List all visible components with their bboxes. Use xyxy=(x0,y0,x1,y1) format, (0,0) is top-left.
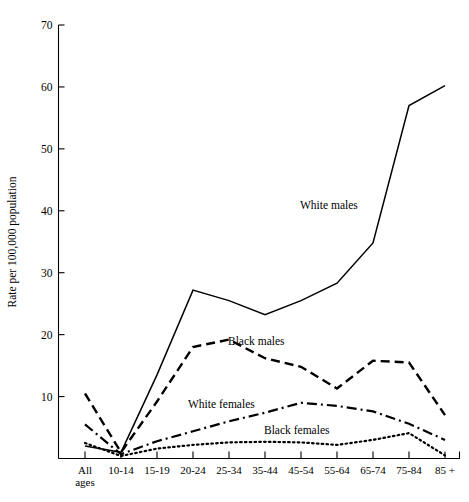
x-axis-tick-labels: Allages10-1415-1920-2425-3435-4445-5455-… xyxy=(75,464,455,488)
y-axis-title: Rate per 100,000 population xyxy=(6,176,19,307)
series-label-white-females: White females xyxy=(188,398,255,410)
y-tick-label-20: 20 xyxy=(41,329,53,341)
series-annotations: White malesBlack malesWhite femalesBlack… xyxy=(188,199,358,436)
x-tick-label-3: 20-24 xyxy=(180,464,206,476)
data-series-group xyxy=(85,86,445,456)
series-label-white-males: White males xyxy=(300,199,358,211)
x-tick-label-8: 65-74 xyxy=(360,464,386,476)
y-tick-label-50: 50 xyxy=(41,143,53,155)
series-label-black-males: Black males xyxy=(228,335,285,347)
series-line-white-males xyxy=(85,86,445,453)
series-label-black-females: Black females xyxy=(264,424,330,436)
x-tick-label-10: 85 + xyxy=(435,464,455,476)
y-tick-label-70: 70 xyxy=(41,19,53,31)
x-tick-label-1: 10-14 xyxy=(108,464,134,476)
x-tick-label-4: 25-34 xyxy=(216,464,242,476)
x-tick-label-2: 15-19 xyxy=(144,464,170,476)
y-tick-label-60: 60 xyxy=(41,81,53,93)
x-tick-label-7: 55-64 xyxy=(324,464,350,476)
chart-figure: Rate per 100,000 population 102030405060… xyxy=(0,0,469,502)
line-chart-svg: Rate per 100,000 population 102030405060… xyxy=(0,0,469,502)
x-tick-label-9: 75-84 xyxy=(396,464,422,476)
x-tick-label-0: All xyxy=(78,464,92,476)
x-tick-label-6: 45-54 xyxy=(288,464,314,476)
x-tick-label-5: 35-44 xyxy=(252,464,278,476)
y-tick-label-40: 40 xyxy=(41,205,53,217)
y-tick-label-10: 10 xyxy=(41,391,53,403)
y-tick-label-30: 30 xyxy=(41,267,53,279)
y-axis-ticks: 10203040506070 xyxy=(41,19,65,403)
x-tick-label-0: ages xyxy=(75,476,95,488)
